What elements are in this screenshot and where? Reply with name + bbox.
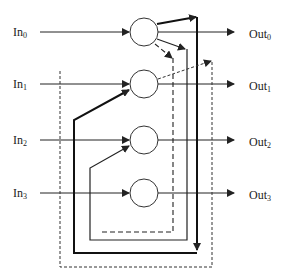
node-1 [130, 70, 158, 98]
output-label-2: Out2 [249, 136, 271, 152]
node-0 [130, 18, 158, 46]
input-label-2: In2 [13, 134, 27, 150]
node-circles [130, 18, 158, 207]
diagram-canvas [0, 0, 285, 280]
output-label-1: Out1 [249, 80, 271, 96]
input-arrows [40, 32, 129, 193]
node-3 [130, 179, 158, 207]
input-label-3: In3 [13, 187, 27, 203]
output-label-0: Out0 [249, 28, 271, 44]
input-label-1: In1 [13, 78, 27, 94]
input-label-0: In0 [13, 26, 27, 42]
node-2 [130, 126, 158, 154]
output-label-3: Out3 [249, 189, 271, 205]
